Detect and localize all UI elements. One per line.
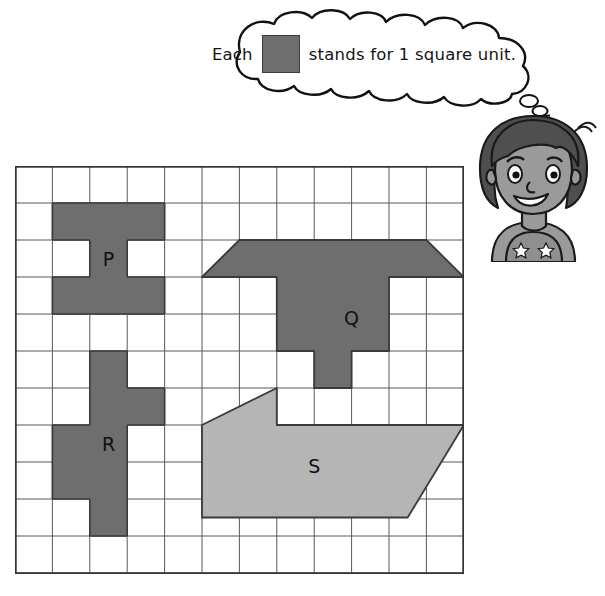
shape-cell — [90, 203, 127, 240]
shape-cell — [52, 277, 89, 314]
worksheet-page: Each stands for 1 square unit. — [0, 0, 605, 596]
cartoon-girl-illustration — [462, 112, 605, 262]
shape-cell — [90, 388, 127, 425]
shape-cell — [90, 499, 127, 536]
shape-cell — [127, 203, 164, 240]
thought-bubble-outline — [178, 8, 550, 120]
shape-cell — [52, 203, 89, 240]
shape-cell — [90, 240, 127, 277]
shape-grid: PQRS — [15, 166, 464, 574]
shape-cell — [127, 388, 164, 425]
thought-bubble: Each stands for 1 square unit. — [178, 8, 550, 120]
shape-cell — [90, 351, 127, 388]
shape-cell — [52, 425, 89, 462]
grid-canvas — [15, 166, 464, 574]
shape-cell — [90, 277, 127, 314]
shape-cell — [90, 425, 127, 462]
shape-cell — [90, 462, 127, 499]
shape-cell — [52, 462, 89, 499]
shape-cell — [127, 277, 164, 314]
